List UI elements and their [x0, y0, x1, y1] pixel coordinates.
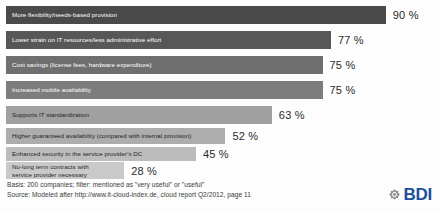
bar: Lower strain on IT resources/less admini…: [6, 31, 331, 49]
bar-row: Enhanced security in the service provide…: [6, 147, 440, 161]
bar-value: 90 %: [393, 9, 419, 21]
bar-value: 75 %: [330, 59, 356, 71]
bar-label: More flexibility/needs-based provision: [12, 11, 117, 19]
footnote-basis: Basis: 200 companies; filter: mentioned …: [7, 180, 251, 190]
bar-value: 52 %: [232, 130, 258, 142]
bar: More flexibility/needs-based provision: [6, 6, 386, 24]
bar: Supports IT standardization: [6, 106, 272, 124]
footnote-source: Source: Modeled after http://www.it-clou…: [7, 190, 251, 200]
bar-label: Enhanced security in the service provide…: [12, 150, 142, 158]
bar-row: Supports IT standardization63 %: [6, 106, 440, 124]
bar-value: 75 %: [330, 84, 356, 96]
bar: Increased mobile availability: [6, 81, 323, 99]
chart-footnotes: Basis: 200 companies; filter: mentioned …: [7, 180, 251, 200]
cloud-benefits-bar-chart: More flexibility/needs-based provision90…: [0, 0, 440, 213]
bar-label: Cost savings (license fees, hardware exp…: [12, 61, 152, 69]
bar-row: More flexibility/needs-based provision90…: [6, 6, 440, 24]
bar-label: No-long term contracts with service prov…: [12, 163, 89, 179]
bar-row: No-long term contracts with service prov…: [6, 162, 440, 179]
bar-row: Cost savings (license fees, hardware exp…: [6, 56, 440, 74]
bdi-logo: BDI: [388, 186, 432, 203]
bar-label: Higher guaranteed availability (compared…: [12, 132, 191, 140]
bar-label: Supports IT standardization: [12, 111, 89, 119]
bar: Cost savings (license fees, hardware exp…: [6, 56, 323, 74]
bar-label: Increased mobile availability: [12, 86, 91, 94]
bar-value: 28 %: [131, 165, 157, 177]
bar-value: 63 %: [279, 109, 305, 121]
rosette-icon: [388, 188, 401, 201]
chart-plot-area: More flexibility/needs-based provision90…: [0, 0, 440, 176]
bar-row: Lower strain on IT resources/less admini…: [6, 31, 440, 49]
bdi-logo-text: BDI: [404, 186, 432, 203]
bar-row: Increased mobile availability75 %: [6, 81, 440, 99]
bar: No-long term contracts with service prov…: [6, 162, 124, 179]
bar-row: Higher guaranteed availability (compared…: [6, 128, 440, 144]
bar: Higher guaranteed availability (compared…: [6, 128, 225, 144]
bar: Enhanced security in the service provide…: [6, 147, 196, 161]
bar-label: Lower strain on IT resources/less admini…: [12, 36, 161, 44]
bar-value: 77 %: [338, 34, 364, 46]
bar-value: 45 %: [203, 148, 229, 160]
